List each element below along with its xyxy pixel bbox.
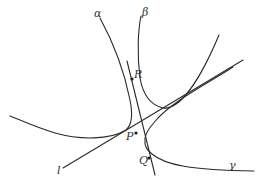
diagram-canvas: α β γ l R P Q	[0, 0, 263, 189]
label-P: P	[125, 130, 134, 143]
point-P	[134, 131, 137, 134]
label-Q: Q	[139, 154, 148, 167]
label-gamma: γ	[229, 159, 236, 172]
label-beta: β	[141, 6, 148, 19]
curve-beta	[138, 16, 219, 108]
label-alpha: α	[94, 7, 102, 20]
curve-alpha	[10, 18, 132, 138]
curve-gamma	[145, 67, 254, 171]
line-l	[63, 60, 243, 168]
label-l: l	[57, 164, 61, 177]
label-R: R	[133, 68, 142, 81]
